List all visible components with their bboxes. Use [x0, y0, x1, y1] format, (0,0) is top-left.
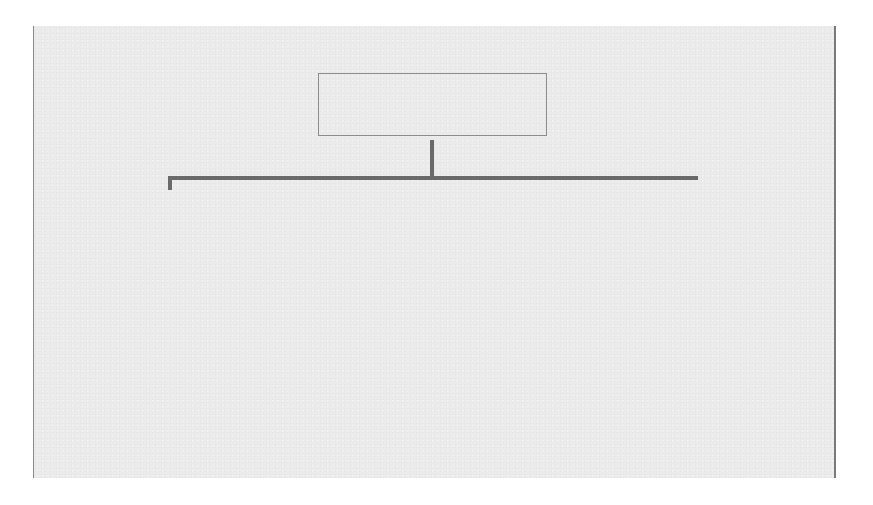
- root-connector: [430, 140, 434, 177]
- baseline-colonoscopy-box: [318, 73, 547, 136]
- branch-bar: [168, 176, 698, 180]
- branch-drop-low: [168, 176, 172, 190]
